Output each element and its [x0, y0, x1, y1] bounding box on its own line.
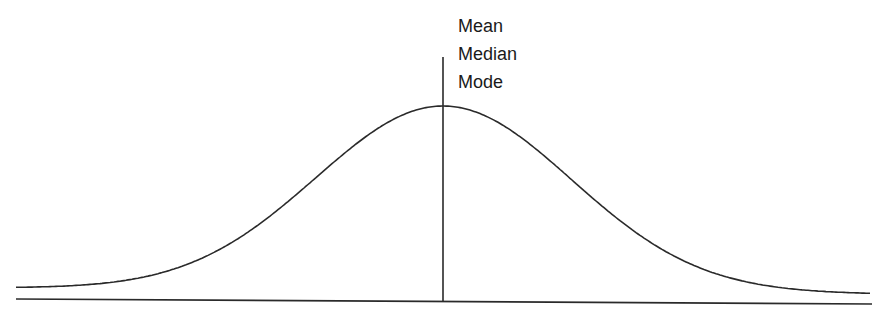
label-median: Median: [458, 44, 517, 64]
label-mean: Mean: [458, 16, 503, 36]
label-mode: Mode: [458, 72, 503, 92]
normal-distribution-diagram: Mean Median Mode: [0, 0, 889, 313]
baseline-axis: [16, 299, 872, 304]
